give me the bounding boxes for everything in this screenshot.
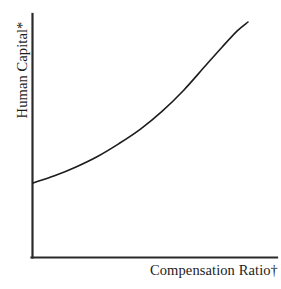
chart-plot-area <box>0 0 281 289</box>
chart-figure: Human Capital* Compensation Ratio† <box>0 0 281 289</box>
chart-background <box>0 0 281 289</box>
